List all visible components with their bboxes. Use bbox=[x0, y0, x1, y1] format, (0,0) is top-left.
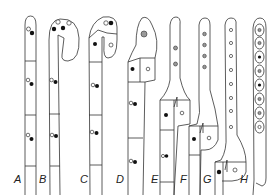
panel-d bbox=[128, 17, 157, 195]
panel-c bbox=[89, 17, 117, 195]
panel-label-e: E bbox=[151, 173, 159, 185]
panel-f bbox=[189, 18, 218, 195]
crozier-development-diagram: A B C D E F G H bbox=[0, 0, 276, 195]
panel-h bbox=[253, 18, 266, 195]
panel-label-b: B bbox=[39, 173, 46, 185]
panel-label-f: F bbox=[180, 173, 188, 185]
panel-label-d: D bbox=[116, 173, 124, 185]
panel-g bbox=[215, 18, 246, 195]
panel-label-g: G bbox=[203, 173, 212, 185]
panel-e bbox=[160, 17, 190, 195]
panel-a bbox=[25, 16, 36, 195]
panel-label-h: H bbox=[240, 173, 248, 185]
panel-label-a: A bbox=[13, 173, 21, 185]
panel-b bbox=[49, 19, 79, 195]
panel-label-c: C bbox=[80, 173, 88, 185]
